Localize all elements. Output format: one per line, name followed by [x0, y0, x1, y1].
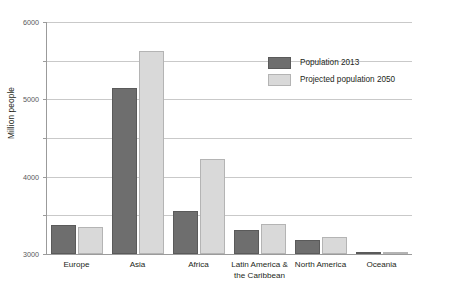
- y-axis-tick-label: 3000: [23, 250, 39, 259]
- bar: [322, 237, 347, 254]
- legend-label: Population 2013: [300, 58, 359, 67]
- legend-swatch-icon-2050: [268, 74, 291, 86]
- y-axis-tick-label: 5000: [23, 95, 39, 104]
- bar-group: [173, 22, 225, 254]
- y-axis-tick-label: 6000: [23, 18, 39, 27]
- legend-swatch-icon-2013: [268, 57, 291, 69]
- bar: [200, 159, 225, 255]
- legend-label: Projected population 2050: [300, 75, 395, 84]
- bar: [234, 230, 259, 254]
- x-axis-category-label: Oceania: [339, 260, 425, 271]
- bar: [173, 211, 198, 254]
- bar: [356, 252, 381, 254]
- legend-item-projected-2050: Projected population 2050: [268, 72, 418, 87]
- population-bar-chart: Million people 0100020003000400050006000…: [0, 0, 450, 297]
- bar-group: [112, 22, 164, 254]
- bar: [112, 88, 137, 254]
- chart-legend: Population 2013 Projected population 205…: [268, 55, 418, 89]
- bar: [51, 225, 76, 254]
- bar: [139, 51, 164, 254]
- x-axis-labels: EuropeAsiaAfricaLatin America &the Carib…: [46, 260, 412, 294]
- bar: [261, 224, 286, 254]
- legend-item-population-2013: Population 2013: [268, 55, 418, 70]
- bar: [295, 240, 320, 254]
- y-axis-title: Million people: [6, 68, 16, 158]
- bar: [383, 252, 408, 254]
- y-axis-tick-label: 4000: [23, 172, 39, 181]
- bar-group: [51, 22, 103, 254]
- bar: [78, 227, 103, 254]
